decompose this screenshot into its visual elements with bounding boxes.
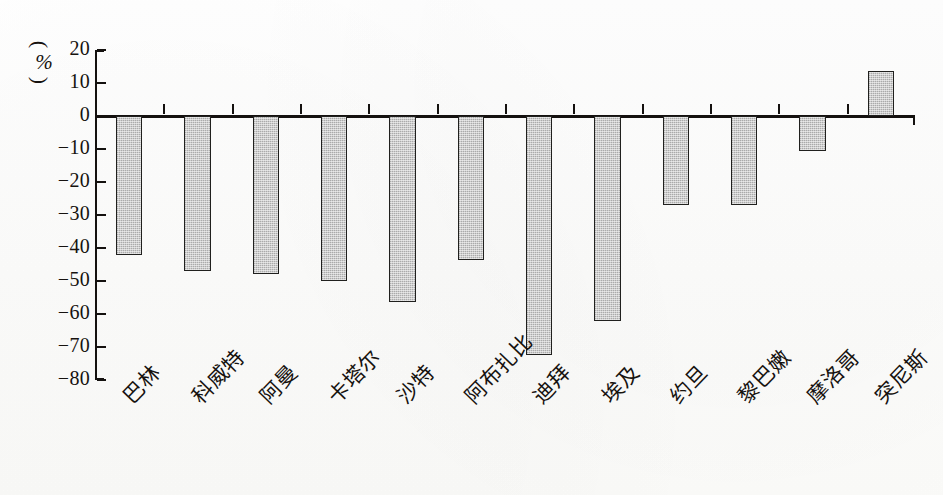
y-axis-tick: −20 [97, 181, 106, 183]
x-axis-tick [573, 104, 575, 114]
y-axis-tick-label: −50 [58, 268, 90, 291]
x-axis-label: 摩洛哥 [799, 342, 865, 409]
bar [731, 116, 757, 205]
y-axis-unit-label: ( % ) [24, 38, 64, 87]
y-axis-tick: −60 [97, 313, 106, 315]
x-axis-tick [847, 104, 849, 114]
bar [458, 116, 484, 260]
x-axis-label: 沙特 [389, 357, 440, 409]
y-axis-tick-label: −20 [58, 169, 90, 192]
y-axis-tick-label: −80 [58, 367, 90, 390]
y-axis-tick: −70 [97, 346, 106, 348]
x-axis-zero-line [95, 115, 915, 118]
y-axis-tick: −40 [97, 247, 106, 249]
bar [389, 116, 415, 302]
y-axis-unit-paren-open: ( [38, 25, 51, 65]
x-axis-label: 埃及 [594, 357, 645, 409]
chart-figure: ( % ) 20100−10−20−30−40−50−60−70−80 巴林科威… [0, 0, 943, 495]
x-axis-label: 阿布扎比 [457, 326, 538, 409]
x-axis-label: 迪拜 [525, 357, 576, 409]
y-axis-tick: 10 [97, 82, 106, 84]
bar [526, 116, 552, 355]
x-axis-label: 科威特 [184, 342, 250, 409]
y-axis-tick-label: −30 [58, 202, 90, 225]
x-axis-label: 突尼斯 [867, 342, 933, 409]
y-axis-tick: −10 [97, 148, 106, 150]
bar [253, 116, 279, 274]
x-axis-label: 约旦 [662, 357, 713, 409]
x-axis-tick [300, 104, 302, 114]
y-axis-tick-label: −60 [58, 301, 90, 324]
bar [184, 116, 210, 271]
y-axis-tick: 20 [97, 49, 106, 51]
y-axis-tick-label: 20 [69, 37, 90, 60]
y-axis-tick-label: 10 [69, 70, 90, 93]
x-axis-tick [437, 104, 439, 114]
y-axis-tick-label: 0 [80, 103, 90, 126]
x-axis-tick [710, 104, 712, 114]
y-axis-unit-paren-close: ) [38, 61, 51, 101]
bar [663, 116, 689, 205]
y-axis-tick: −80 [97, 379, 106, 381]
x-axis-label: 巴林 [115, 357, 166, 409]
x-axis-tick [778, 104, 780, 114]
bar [594, 116, 620, 321]
y-axis-tick: −50 [97, 280, 106, 282]
x-axis-tick [232, 104, 234, 114]
plot-area: 20100−10−20−30−40−50−60−70−80 巴林科威特阿曼卡塔尔… [95, 50, 915, 380]
x-axis-tick [642, 104, 644, 114]
bar [321, 116, 347, 281]
x-axis-label: 阿曼 [252, 357, 303, 409]
y-axis-tick-label: −40 [58, 235, 90, 258]
y-axis-tick-label: −70 [58, 334, 90, 357]
x-axis-end-tick [913, 115, 915, 125]
x-axis-label: 黎巴嫩 [730, 342, 796, 409]
x-axis-tick [95, 104, 97, 114]
y-axis-tick-label: −10 [58, 136, 90, 159]
x-axis-tick [505, 104, 507, 114]
x-axis-tick [163, 104, 165, 114]
y-axis-tick: −30 [97, 214, 106, 216]
bar [799, 116, 825, 151]
bar [868, 71, 894, 116]
x-axis-label: 卡塔尔 [320, 342, 386, 409]
bar [116, 116, 142, 255]
x-axis-tick [368, 104, 370, 114]
